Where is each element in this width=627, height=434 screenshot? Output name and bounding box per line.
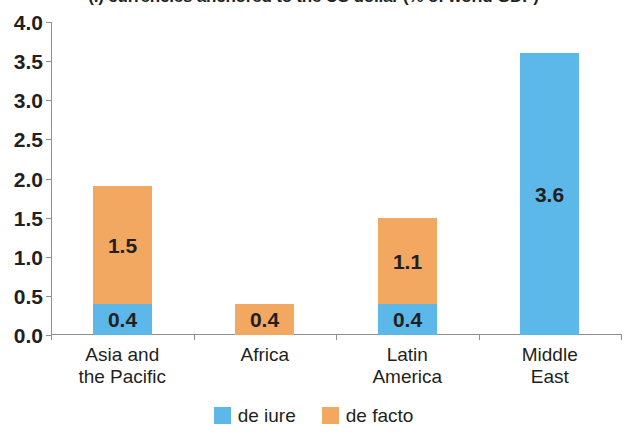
x-axis-tick [621, 334, 622, 340]
y-axis-tick [46, 100, 52, 101]
bar-group[interactable]: 3.6 [520, 22, 579, 335]
y-axis-tick [46, 22, 52, 23]
bar-segment-de-facto[interactable] [93, 186, 152, 303]
y-axis-tick-label: 2.5 [14, 129, 43, 150]
legend-label: de iure [238, 406, 296, 425]
bar-group[interactable]: 0.41.1 [378, 22, 437, 335]
x-axis-category-label: Africa [194, 344, 337, 366]
y-axis-tick [46, 296, 52, 297]
bar-segment-de-iure[interactable] [93, 304, 152, 335]
plot-area: 0.00.51.01.52.02.53.03.54.0 0.41.50.40.4… [51, 22, 621, 335]
x-axis-category-label: Middle East [479, 344, 622, 389]
x-axis-tick [336, 334, 337, 340]
y-axis-tick-label: 3.0 [14, 90, 43, 111]
y-axis-tick-label: 0.0 [14, 325, 43, 346]
legend-swatch-icon [322, 407, 339, 424]
y-axis-tick [46, 139, 52, 140]
y-axis-tick-label: 1.0 [14, 246, 43, 267]
x-axis-category-label: Latin America [336, 344, 479, 389]
legend-item[interactable]: de iure [214, 406, 296, 425]
y-axis-tick [46, 61, 52, 62]
y-axis-tick-label: 3.5 [14, 51, 43, 72]
chart-legend: de iurede facto [0, 406, 627, 425]
y-axis-tick [46, 257, 52, 258]
legend-label: de facto [346, 406, 414, 425]
legend-swatch-icon [214, 407, 231, 424]
bar-segment-de-iure[interactable] [378, 304, 437, 335]
x-axis-tick [479, 334, 480, 340]
bar-segment-de-facto[interactable] [378, 218, 437, 304]
legend-item[interactable]: de facto [322, 406, 414, 425]
bar-segment-de-facto[interactable] [235, 304, 294, 335]
y-axis-tick [46, 218, 52, 219]
y-axis-tick-label: 4.0 [14, 12, 43, 33]
chart-figure: (.) currencies anchored to the US dollar… [0, 0, 627, 434]
bar-segment-de-iure[interactable] [520, 53, 579, 335]
x-axis-tick [194, 334, 195, 340]
y-axis-tick-label: 1.5 [14, 207, 43, 228]
y-axis-tick-label: 2.0 [14, 168, 43, 189]
chart-title: (.) currencies anchored to the US dollar… [0, 0, 627, 7]
x-axis-category-label: Asia and the Pacific [51, 344, 194, 389]
x-axis-tick [51, 334, 52, 340]
bar-group[interactable]: 0.41.5 [93, 22, 152, 335]
y-axis-tick-label: 0.5 [14, 285, 43, 306]
y-axis-tick [46, 179, 52, 180]
bar-group[interactable]: 0.4 [235, 22, 294, 335]
